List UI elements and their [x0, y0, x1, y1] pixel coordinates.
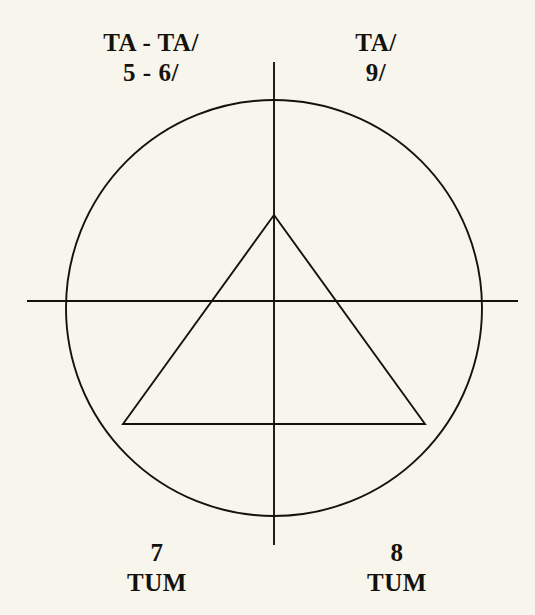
- label-top-left-line2: 5 - 6/: [20, 58, 282, 88]
- label-bottom-left-line1: 7: [67, 538, 247, 568]
- label-top-right: TA/ 9/: [286, 28, 466, 87]
- label-bottom-right: 8 TUM: [307, 538, 487, 597]
- label-top-right-line2: 9/: [286, 58, 466, 88]
- label-bottom-right-line1: 8: [307, 538, 487, 568]
- diagram-canvas: TA - TA/ 5 - 6/ TA/ 9/ 7 TUM 8 TUM: [0, 0, 535, 615]
- label-bottom-left-line2: TUM: [67, 568, 247, 598]
- geometric-diagram: [0, 0, 535, 615]
- label-top-left: TA - TA/ 5 - 6/: [20, 28, 282, 87]
- label-top-right-line1: TA/: [286, 28, 466, 58]
- label-bottom-left: 7 TUM: [67, 538, 247, 597]
- label-bottom-right-line2: TUM: [307, 568, 487, 598]
- label-top-left-line1: TA - TA/: [20, 28, 282, 58]
